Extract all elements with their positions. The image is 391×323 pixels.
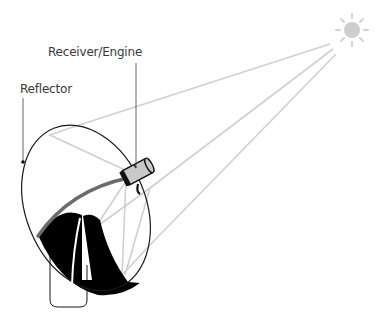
- receiver-engine: [119, 157, 156, 187]
- reflector-leader-dot: [21, 160, 25, 164]
- receiver-mount: [137, 184, 140, 194]
- sun-icon: [336, 14, 368, 46]
- reflector-label: Reflector: [20, 82, 72, 96]
- incoming-light-rays: [70, 44, 336, 245]
- receiver-engine-label: Receiver/Engine: [48, 45, 142, 59]
